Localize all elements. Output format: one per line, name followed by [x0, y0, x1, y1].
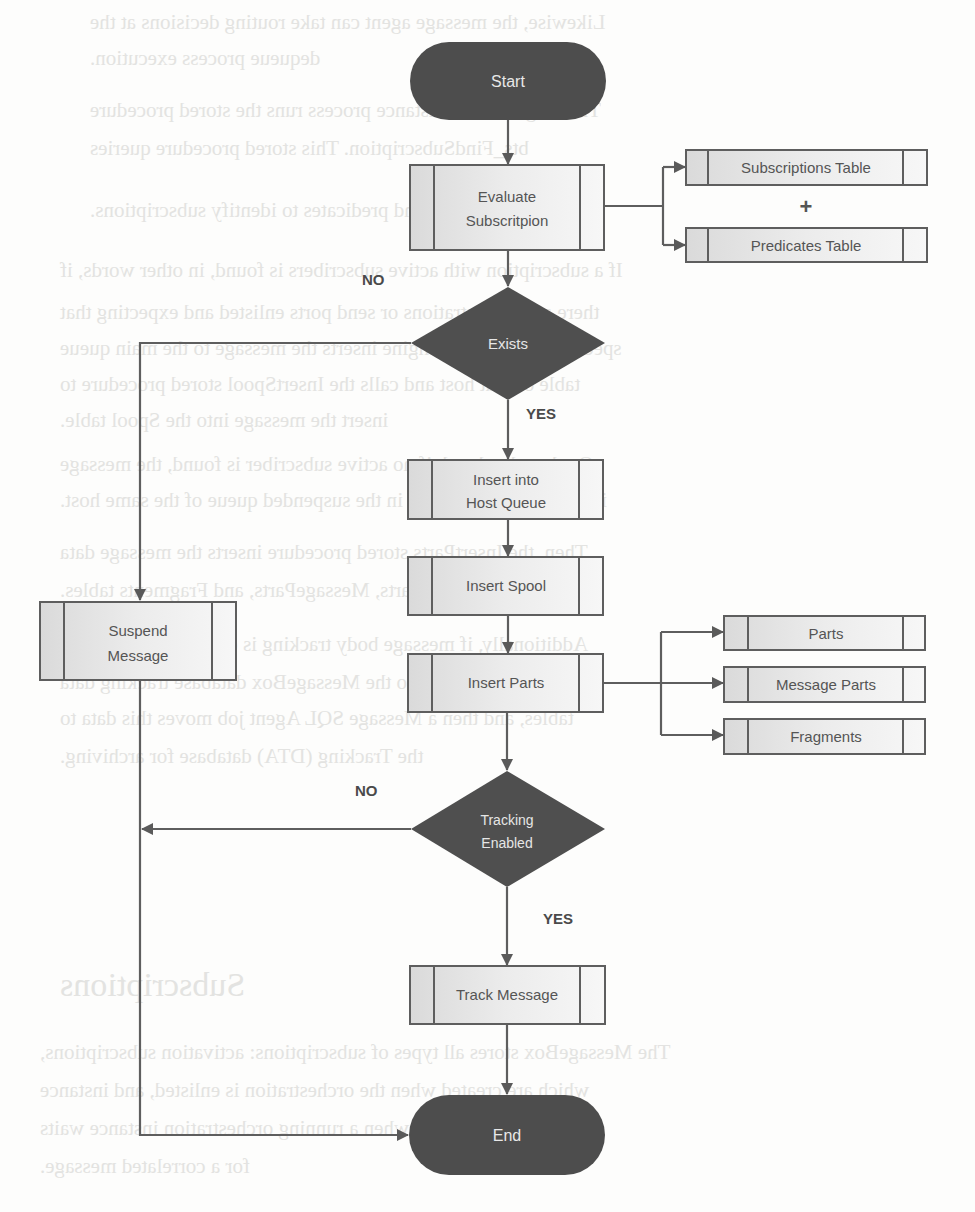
plus-icon: + [800, 194, 813, 219]
tracking-no-label: NO [355, 782, 378, 799]
fragments-table-node: Fragments [724, 719, 925, 754]
subscriptions-table-node: Subscriptions Table [686, 150, 927, 185]
track-message-label: Track Message [456, 986, 558, 1003]
insert-parts-node: Insert Parts [408, 654, 603, 712]
flowchart: Start Evaluate Subscritpion Subscription… [0, 0, 975, 1212]
exists-decision: Exists [411, 287, 605, 400]
parts-label: Parts [808, 625, 843, 642]
evaluate-subscription-node: Evaluate Subscritpion [410, 165, 604, 250]
scanned-page: Likewise, the message agent can take rou… [0, 0, 975, 1212]
edge-suspend-end [140, 680, 408, 1135]
predicates-table-label: Predicates Table [751, 237, 862, 254]
subscriptions-table-label: Subscriptions Table [741, 159, 871, 176]
evaluate-label-line2: Subscritpion [466, 212, 549, 229]
insert-parts-label: Insert Parts [468, 674, 545, 691]
insert-host-queue-line2: Host Queue [466, 494, 546, 511]
message-parts-label: Message Parts [776, 676, 876, 693]
start-label: Start [491, 73, 525, 90]
suspend-label-line2: Message [108, 647, 169, 664]
predicates-table-node: Predicates Table [686, 228, 927, 262]
exists-yes-label: YES [526, 405, 556, 422]
edge-exists-no-suspend [140, 343, 411, 600]
track-message-node: Track Message [410, 966, 605, 1024]
parts-table-node: Parts [724, 616, 925, 650]
tracking-yes-label: YES [543, 910, 573, 927]
insert-spool-label: Insert Spool [466, 577, 546, 594]
tracking-label-line2: Enabled [481, 835, 532, 851]
end-node: End [409, 1095, 605, 1175]
end-label: End [493, 1127, 521, 1144]
insert-host-queue-node: Insert into Host Queue [408, 460, 603, 519]
insert-spool-node: Insert Spool [408, 557, 603, 615]
fragments-label: Fragments [790, 728, 862, 745]
insert-host-queue-line1: Insert into [473, 471, 539, 488]
tracking-label-line1: Tracking [480, 812, 533, 828]
evaluate-label-line1: Evaluate [478, 188, 536, 205]
tracking-enabled-decision: Tracking Enabled [411, 771, 605, 887]
message-parts-table-node: Message Parts [724, 667, 925, 702]
exists-no-label: NO [362, 271, 385, 288]
suspend-label-line1: Suspend [108, 622, 167, 639]
suspend-message-node: Suspend Message [40, 602, 236, 680]
exists-label: Exists [488, 335, 528, 352]
start-node: Start [410, 42, 606, 120]
